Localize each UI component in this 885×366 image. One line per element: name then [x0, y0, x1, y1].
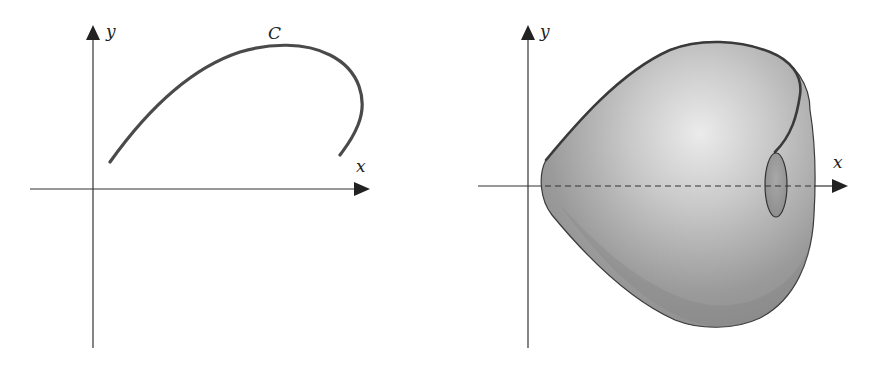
- left-y-axis: [86, 25, 100, 348]
- x-axis-arrow-icon: [832, 179, 848, 193]
- left-x-label: x: [356, 156, 366, 176]
- left-x-axis: [30, 182, 370, 196]
- curve-label: C: [268, 23, 281, 43]
- right-figure: y x: [478, 21, 848, 348]
- y-axis-arrow-icon: [86, 25, 100, 40]
- y-axis-arrow-icon: [521, 25, 535, 40]
- right-x-axis: [814, 179, 848, 193]
- left-figure: y x C: [30, 21, 370, 348]
- x-axis-arrow-icon: [354, 182, 370, 196]
- curve-c: [110, 45, 362, 162]
- right-x-label: x: [833, 152, 843, 172]
- inner-hole-ellipse: [765, 153, 787, 217]
- left-y-label: y: [105, 21, 116, 41]
- figure-canvas: y x C y x: [0, 0, 885, 366]
- right-y-label: y: [539, 21, 550, 41]
